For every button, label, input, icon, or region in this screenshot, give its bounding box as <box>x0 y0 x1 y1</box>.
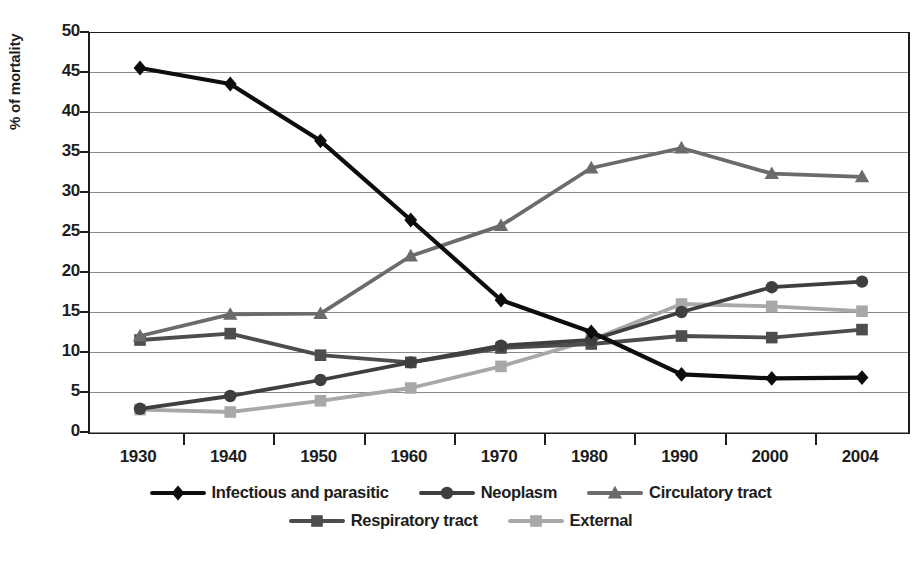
legend-item[interactable]: Circulatory tract <box>587 483 771 502</box>
x-axis-tick-label: 1960 <box>369 447 449 467</box>
y-axis-tick-label: 10 <box>38 341 80 361</box>
data-point-diamond <box>171 485 184 500</box>
y-axis-tick-mark <box>80 231 89 233</box>
legend-item[interactable]: Respiratory tract <box>289 511 478 530</box>
chart-legend: Infectious and parasiticNeoplasmCirculat… <box>0 483 921 539</box>
y-axis-tick-mark <box>80 271 89 273</box>
y-axis-tick-mark <box>80 111 89 113</box>
legend-item[interactable]: Infectious and parasitic <box>150 483 389 502</box>
y-axis-tick-label: 45 <box>38 61 80 81</box>
y-axis-tick-label: 0 <box>38 421 80 441</box>
legend-marker-square-icon <box>289 513 345 529</box>
y-axis-tick-label: 15 <box>38 301 80 321</box>
data-point-square <box>856 305 868 317</box>
x-axis-tick-mark <box>634 434 636 445</box>
legend-swatch-icon <box>508 513 564 529</box>
y-axis-title: % of mortality <box>6 0 23 130</box>
y-axis-tick-mark <box>80 391 89 393</box>
y-axis-tick-label: 50 <box>38 21 80 41</box>
data-point-circle <box>314 374 326 386</box>
data-point-triangle <box>674 141 688 154</box>
chart-figure: % of mortality 05101520253035404550 1930… <box>0 0 921 572</box>
data-point-diamond <box>765 371 778 386</box>
data-point-circle <box>675 306 687 318</box>
y-axis-tick-labels: 05101520253035404550 <box>30 32 80 432</box>
x-axis-tick-mark <box>273 434 275 445</box>
data-point-square <box>766 332 778 344</box>
legend-marker-triangle-icon <box>587 485 643 501</box>
x-axis-tick-mark <box>364 434 366 445</box>
legend-marker-square-icon <box>508 513 564 529</box>
legend-row: Infectious and parasiticNeoplasmCirculat… <box>0 483 921 502</box>
y-axis-tick-mark <box>80 351 89 353</box>
legend-row: Respiratory tractExternal <box>0 511 921 530</box>
data-point-circle <box>440 486 452 498</box>
legend-label: Neoplasm <box>481 483 557 502</box>
y-axis-tick-label: 5 <box>38 381 80 401</box>
plot-area <box>88 32 910 434</box>
legend-label: Respiratory tract <box>351 511 478 530</box>
legend-item[interactable]: Neoplasm <box>419 483 557 502</box>
legend-swatch-icon <box>289 513 345 529</box>
y-axis-tick-label: 30 <box>38 181 80 201</box>
data-point-square <box>405 382 417 394</box>
y-axis-tick-label: 20 <box>38 261 80 281</box>
x-axis-tick-label: 1990 <box>640 447 720 467</box>
legend-swatch-icon <box>419 485 475 501</box>
data-point-diamond <box>856 370 869 385</box>
y-axis-tick-mark <box>80 191 89 193</box>
x-axis-tick-label: 1930 <box>98 447 178 467</box>
data-point-square <box>315 349 327 361</box>
data-point-square <box>224 328 236 340</box>
x-axis-tick-mark <box>544 434 546 445</box>
y-axis-tick-mark <box>80 431 89 433</box>
data-point-square <box>530 515 542 527</box>
data-point-diamond <box>675 367 688 382</box>
data-point-square <box>315 395 327 407</box>
x-axis-tick-label: 1980 <box>549 447 629 467</box>
data-point-square <box>676 330 688 342</box>
data-point-circle <box>224 390 236 402</box>
x-axis-tick-label: 1940 <box>188 447 268 467</box>
y-axis-tick-mark <box>80 71 89 73</box>
x-axis-tick-label: 1950 <box>279 447 359 467</box>
y-axis-tick-label: 35 <box>38 141 80 161</box>
legend-item[interactable]: External <box>508 511 633 530</box>
x-axis-tick-mark <box>725 434 727 445</box>
data-point-square <box>311 515 323 527</box>
data-point-square <box>856 324 868 336</box>
data-point-circle <box>766 281 778 293</box>
legend-swatch-icon <box>587 485 643 501</box>
legend-label: Circulatory tract <box>649 483 771 502</box>
data-point-diamond <box>134 61 147 76</box>
legend-label: External <box>570 511 633 530</box>
legend-marker-circle-icon <box>419 485 475 501</box>
y-axis-tick-mark <box>80 31 89 33</box>
data-point-circle <box>495 339 507 351</box>
legend-marker-diamond-icon <box>150 485 206 501</box>
y-axis-tick-label: 25 <box>38 221 80 241</box>
y-axis-tick-label: 40 <box>38 101 80 121</box>
series-line <box>133 141 869 342</box>
data-point-square <box>224 406 236 418</box>
x-axis-tick-mark <box>183 434 185 445</box>
series-polyline <box>140 304 862 412</box>
legend-swatch-icon <box>150 485 206 501</box>
data-point-square <box>766 301 778 313</box>
y-axis-tick-mark <box>80 151 89 153</box>
data-point-square <box>495 361 507 373</box>
x-axis-tick-label: 2000 <box>730 447 810 467</box>
x-axis-tick-mark <box>454 434 456 445</box>
plot-svg <box>90 32 908 432</box>
x-axis-tick-label: 2004 <box>820 447 900 467</box>
data-point-circle <box>405 356 417 368</box>
legend-label: Infectious and parasitic <box>212 483 389 502</box>
data-point-circle <box>134 403 146 415</box>
y-axis-tick-mark <box>80 311 89 313</box>
data-point-circle <box>856 275 868 287</box>
x-axis-tick-label: 1970 <box>459 447 539 467</box>
x-axis-tick-mark <box>815 434 817 445</box>
